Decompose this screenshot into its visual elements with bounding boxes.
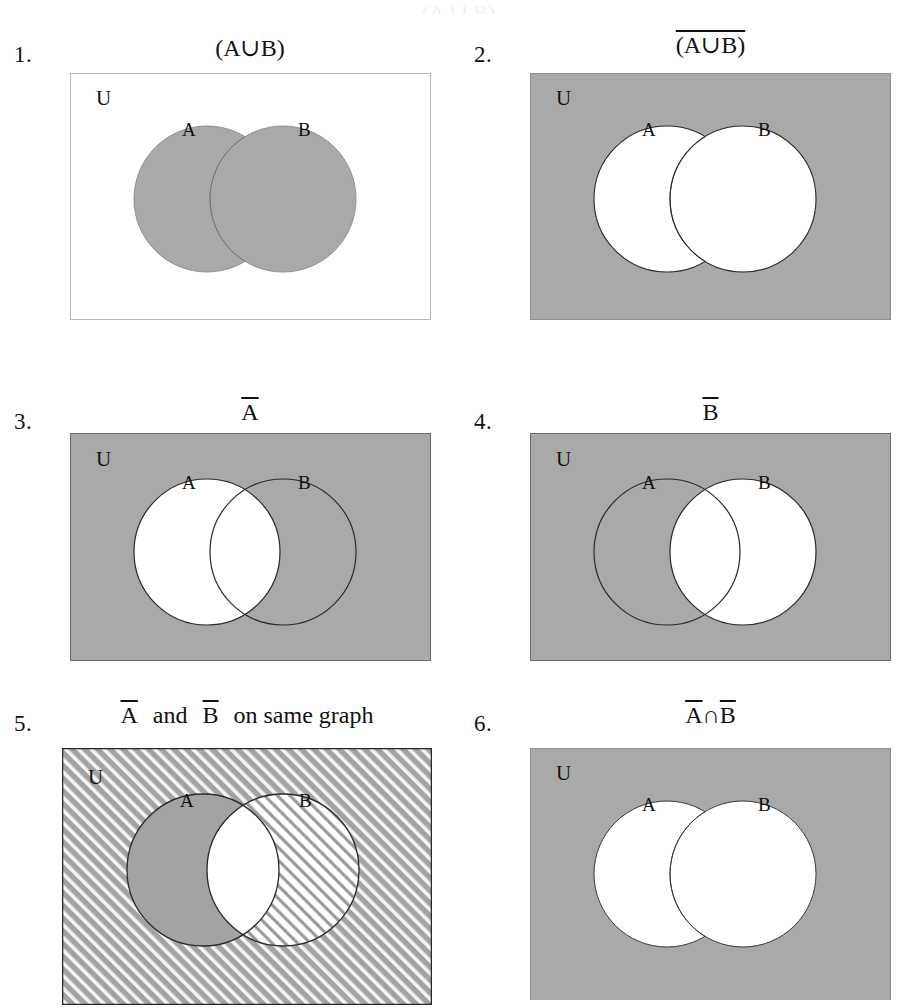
panel-1-number: 1. [14, 43, 32, 66]
panel-1-title: (A∪B) [70, 36, 430, 61]
panel-5-title-part-1: A [121, 702, 138, 728]
panel-5-title-part-3: B [203, 702, 219, 728]
panel-3-title: A [70, 400, 430, 425]
panel-6-number: 6. [474, 712, 492, 735]
panel-3-universe-label: U [96, 447, 111, 471]
panel-1-universe-label: U [96, 86, 111, 110]
panel-6-title: A∩B [530, 703, 891, 728]
panel-3-label-a: A [182, 472, 196, 493]
panel-4-number: 4. [474, 410, 492, 433]
panel-5-venn-diagram: U A B [62, 748, 432, 1008]
panel-5-svg: U A B [62, 748, 432, 1008]
panel-3-svg: U A B [70, 433, 431, 661]
panel-6-title-part-2: ∩ [702, 702, 719, 728]
panel-4-title-part-1: B [702, 399, 718, 425]
panel-4-label-b: B [758, 472, 771, 493]
panel-1-label-b: B [298, 119, 311, 140]
panel-6-title-part-3: B [720, 702, 736, 728]
top-cropped-text: (A ∪ B) [0, 0, 917, 14]
panel-5-label-a: A [180, 790, 194, 811]
panel-2-venn-diagram: U A B [530, 73, 891, 320]
panel-3-number: 3. [14, 410, 32, 433]
panel-2-title-part-1: (A∪B) [676, 32, 745, 58]
panel-2-svg: U A B [530, 73, 891, 320]
panel-5-label-b: B [299, 790, 312, 811]
panel-5-universe-label: U [88, 765, 103, 789]
panel-4-label-a: A [642, 472, 656, 493]
panel-3-label-b: B [298, 472, 311, 493]
panel-6-circle-b [670, 801, 816, 947]
panel-1-circle-b [210, 126, 356, 272]
panel-2-label-a: A [642, 119, 656, 140]
panel-6-venn-diagram: U A B [530, 748, 891, 1000]
panel-2-universe-label: U [556, 86, 571, 110]
panel-1-title-part-1: (A∪B) [215, 35, 284, 61]
panel-2-circle-b [670, 126, 816, 272]
panel-6-label-a: A [642, 794, 656, 815]
panel-4-circle-b [670, 479, 816, 625]
panel-1-label-a: A [182, 119, 196, 140]
panel-1-svg: U A B [70, 73, 431, 320]
panel-6-title-part-1: A [685, 702, 702, 728]
panel-2-title: (A∪B) [530, 33, 891, 58]
panel-5-number: 5. [14, 712, 32, 735]
panel-5-title-part-4: on same graph [228, 702, 374, 728]
panel-6-label-b: B [758, 794, 771, 815]
panel-4-venn-diagram: U A B [530, 433, 891, 661]
panel-2-number: 2. [474, 43, 492, 66]
panel-6-svg: U A B [530, 748, 891, 1000]
panel-5-title-part-2: and [147, 702, 194, 728]
panel-1-venn-diagram: U A B [70, 73, 431, 320]
panel-3-venn-diagram: U A B [70, 433, 431, 661]
panel-3-circle-a [134, 479, 280, 625]
panel-4-universe-label: U [556, 447, 571, 471]
panel-6-universe-label: U [556, 761, 571, 785]
panel-2-label-b: B [758, 119, 771, 140]
panel-5-title: A and B on same graph [62, 703, 432, 728]
panel-4-svg: U A B [530, 433, 891, 661]
panel-4-title: B [530, 400, 891, 425]
panel-3-title-part-1: A [241, 399, 258, 425]
